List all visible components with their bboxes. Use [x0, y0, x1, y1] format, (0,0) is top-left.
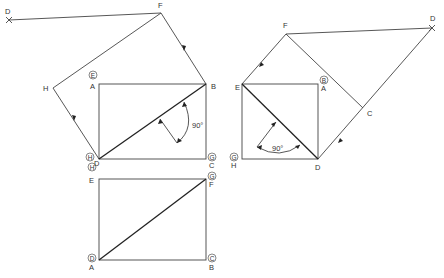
line-f-c	[286, 34, 363, 108]
label-c-right: C	[367, 109, 373, 118]
label-d-right: D	[430, 14, 436, 23]
label-f-left: F	[158, 1, 163, 10]
angle-label-left: 90°	[192, 121, 203, 130]
circled-label: C	[210, 255, 215, 262]
diagonal-a-f	[99, 179, 206, 260]
label-h-right: H	[231, 161, 236, 170]
line-h-d	[53, 88, 99, 159]
line-d-f	[9, 13, 161, 20]
circled-label: D	[90, 255, 95, 262]
circled-label: H	[90, 164, 95, 171]
label-a-right: A	[321, 84, 326, 93]
label-c-left: C	[209, 161, 215, 170]
angle-label-right: 90°	[272, 144, 283, 153]
label-f-bottom: F	[209, 180, 214, 189]
label-b-left: B	[211, 82, 216, 91]
arrow-icon	[338, 138, 343, 143]
circled-label: B	[322, 77, 326, 84]
label-f-right: F	[283, 21, 288, 30]
left-top-construction: D F H E A B H D G C 90°	[5, 1, 216, 170]
circled-label: G	[209, 173, 214, 180]
label-d-left: D	[5, 7, 11, 16]
circled-label: H	[88, 154, 93, 161]
circled-label: G	[209, 154, 214, 161]
line-d-dcorner	[318, 28, 432, 159]
label-a-left: A	[90, 82, 95, 91]
label-d-right-corner: D	[315, 163, 321, 172]
label-a-bottom: A	[89, 263, 94, 272]
line-f-e	[242, 34, 286, 84]
line-f-d-right	[286, 28, 432, 34]
label-e-right: E	[235, 83, 240, 92]
circled-label: E	[91, 72, 96, 79]
label-h-left: H	[43, 84, 48, 93]
angle-arc	[177, 102, 189, 143]
diagonal-d-b	[99, 84, 206, 159]
line-f-h	[53, 13, 161, 88]
circled-label: G	[231, 154, 236, 161]
arrow-icon	[295, 145, 300, 149]
arrow-icon	[271, 122, 276, 127]
label-e-bottom: E	[89, 176, 94, 185]
arrow-icon	[182, 45, 186, 51]
label-b-bottom: B	[209, 263, 214, 272]
label-d-corner: D	[94, 159, 100, 168]
diagram-canvas: D F H E A B H D G C 90° H E G	[0, 0, 444, 278]
right-construction: D F C E B A G H D 90°	[230, 14, 436, 172]
left-bottom-rectangle: H E G F D A C B	[88, 163, 216, 272]
